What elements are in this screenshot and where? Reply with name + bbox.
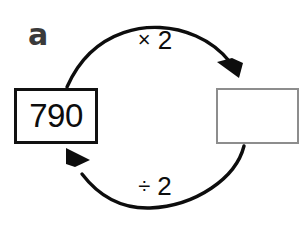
- start-value-box: 790: [14, 88, 98, 144]
- multiply-sign-icon: ×: [138, 29, 151, 51]
- start-value-text: 790: [29, 99, 83, 134]
- multiply-operation-label: ×2: [110, 27, 200, 53]
- part-label: a: [22, 18, 54, 52]
- multiply-operand: 2: [158, 27, 172, 53]
- divide-operation-label: ÷2: [110, 173, 200, 199]
- diagram-canvas: a 790 ×2 ÷2: [0, 0, 308, 234]
- divide-operand: 2: [157, 173, 171, 199]
- arrowhead-down-right-icon: [217, 58, 243, 78]
- divide-sign-icon: ÷: [138, 175, 150, 197]
- answer-input-box[interactable]: [216, 88, 299, 144]
- arrowhead-up-left-icon: [66, 148, 90, 167]
